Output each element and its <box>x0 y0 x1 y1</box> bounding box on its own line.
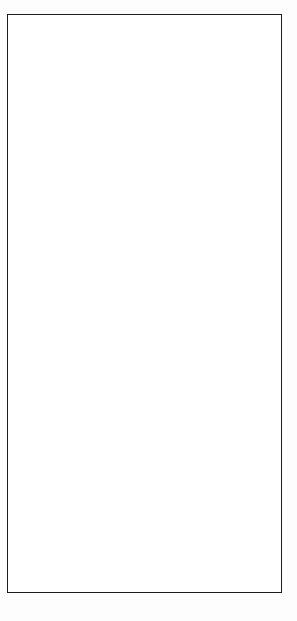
polar-directivity-chart <box>0 0 297 621</box>
intensity-plot-page <box>0 0 297 621</box>
